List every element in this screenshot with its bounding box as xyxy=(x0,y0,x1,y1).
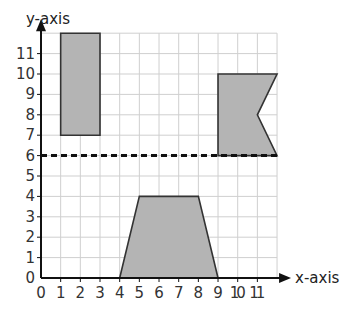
x-tick-label: 3 xyxy=(95,284,105,302)
y-tick-label: 7 xyxy=(25,126,35,144)
y-tick-label: 6 xyxy=(25,147,35,165)
x-tick-label: 6 xyxy=(154,284,164,302)
y-tick-label: 9 xyxy=(25,85,35,103)
y-tick-label: 8 xyxy=(25,106,35,124)
y-tick-label: 5 xyxy=(25,167,35,185)
x-tick-label: 2 xyxy=(76,284,86,302)
y-axis-label: y-axis xyxy=(26,10,70,28)
x-tick-label: 10 xyxy=(230,284,246,302)
y-tick-label: 4 xyxy=(25,187,35,205)
y-tick-label: 3 xyxy=(25,208,35,226)
x-tick-label: 11 xyxy=(249,284,265,302)
y-tick-label: 1 xyxy=(25,249,35,267)
x-tick-label: 0 xyxy=(36,284,46,302)
rectangle-shape xyxy=(61,33,100,135)
x-tick-label: 8 xyxy=(194,284,204,302)
coordinate-grid-diagram: 0123456789101101234567891011y-axisx-axis xyxy=(0,0,343,314)
trapezoid-shape xyxy=(120,196,218,278)
x-tick-label: 7 xyxy=(174,284,184,302)
y-tick-label: 0 xyxy=(25,269,35,287)
x-axis-arrow-icon xyxy=(279,273,291,283)
x-tick-label: 1 xyxy=(56,284,66,302)
x-axis-label: x-axis xyxy=(295,269,340,287)
x-tick-label: 9 xyxy=(213,284,223,302)
y-tick-label: 11 xyxy=(16,45,35,63)
y-tick-label: 10 xyxy=(16,65,35,83)
x-tick-label: 5 xyxy=(135,284,145,302)
x-tick-label: 4 xyxy=(115,284,125,302)
y-tick-label: 2 xyxy=(25,228,35,246)
